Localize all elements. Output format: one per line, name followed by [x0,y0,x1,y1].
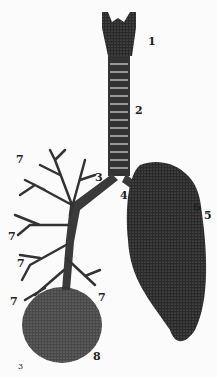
trachea-shape [108,56,130,176]
anatomical-figure: 1 2 3 4 6 5 7 7 7 7 7 8 3 [0,0,217,377]
label-alveoli: 8 [93,351,101,362]
label-lung-5: 5 [204,210,212,221]
label-branch-7a: 7 [16,154,24,165]
label-larynx: 1 [148,36,156,47]
label-trachea: 2 [135,105,143,116]
label-branch-7d: 7 [10,296,18,307]
label-branch-7b: 7 [8,231,16,242]
bronchial-tree [15,150,100,300]
lung-shape [127,162,206,341]
larynx-shape [102,12,136,56]
right-bronchus-shape [62,174,118,290]
label-lung-6: 6 [193,202,201,213]
label-branch-7c: 7 [17,258,25,269]
label-branch-7e: 7 [98,292,106,303]
label-small-3: 3 [18,363,23,371]
label-right-bronchus: 3 [95,172,103,183]
label-left-bronchus: 4 [120,190,128,201]
respiratory-illustration [0,0,217,377]
alveoli-cluster [22,287,102,363]
